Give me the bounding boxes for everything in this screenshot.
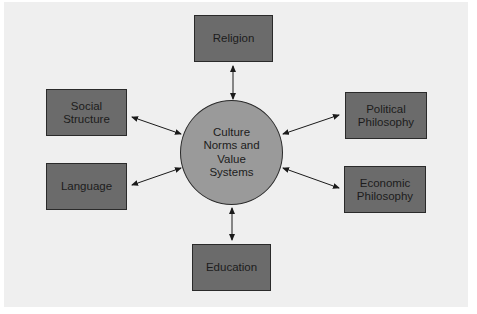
center-label: Culture Norms and Value Systems bbox=[203, 126, 259, 180]
arrow-economic-philosophy bbox=[283, 168, 339, 188]
center-node-culture: Culture Norms and Value Systems bbox=[180, 100, 283, 205]
node-label: Religion bbox=[213, 32, 255, 45]
arrow-social-structure bbox=[132, 117, 181, 134]
node-social-structure: Social Structure bbox=[46, 89, 127, 136]
node-label: Economic Philosophy bbox=[357, 177, 413, 203]
arrow-language bbox=[132, 168, 181, 185]
node-label: Language bbox=[61, 180, 112, 193]
node-political-philosophy: Political Philosophy bbox=[345, 92, 427, 139]
node-economic-philosophy: Economic Philosophy bbox=[344, 166, 426, 213]
node-label: Education bbox=[206, 261, 257, 274]
arrow-political-philosophy bbox=[283, 115, 339, 134]
node-education: Education bbox=[192, 244, 271, 291]
node-label: Social Structure bbox=[63, 100, 110, 126]
node-label: Political Philosophy bbox=[358, 103, 414, 129]
node-religion: Religion bbox=[194, 15, 273, 62]
node-language: Language bbox=[46, 163, 127, 210]
